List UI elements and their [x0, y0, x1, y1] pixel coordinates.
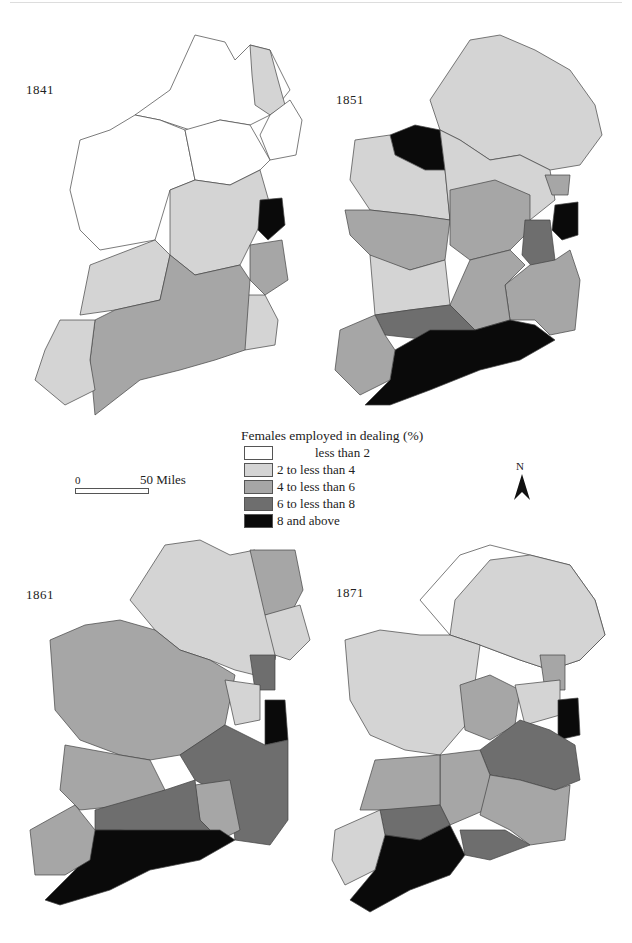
- map-panel-1841: 1841: [20, 20, 320, 430]
- ireland-map-1861: [20, 530, 320, 940]
- legend-item-1: less than 2: [244, 445, 444, 461]
- ireland-map-1841: [20, 20, 320, 430]
- legend-swatch-mid-gray: [244, 480, 273, 494]
- scale-start-label: 0: [75, 474, 81, 486]
- map-panel-1871: 1871: [330, 540, 630, 940]
- legend-label: 6 to less than 8: [277, 496, 355, 512]
- ireland-map-1871: [330, 540, 630, 940]
- legend-item-2: 2 to less than 4: [244, 462, 444, 478]
- legend-swatch-light-gray: [244, 463, 273, 477]
- legend-swatch-dark-gray: [244, 497, 273, 511]
- legend-label: 4 to less than 6: [277, 479, 355, 495]
- north-arrow: N: [512, 460, 532, 500]
- top-rule: [10, 2, 622, 3]
- legend-title: Females employed in dealing (%): [241, 428, 444, 444]
- map-panel-1861: 1861: [20, 530, 320, 940]
- legend: Females employed in dealing (%) less tha…: [244, 428, 444, 529]
- ireland-map-1851: [330, 20, 630, 430]
- scale-end-label: 50 Miles: [140, 472, 186, 488]
- north-arrow-icon: [512, 474, 532, 504]
- legend-label: less than 2: [315, 445, 370, 461]
- scale-bar-graphic: [75, 488, 149, 494]
- legend-label: 8 and above: [277, 513, 340, 529]
- legend-swatch-white: [244, 446, 273, 460]
- legend-item-4: 6 to less than 8: [244, 496, 444, 512]
- map-panel-1851: 1851: [330, 20, 630, 430]
- legend-item-3: 4 to less than 6: [244, 479, 444, 495]
- legend-item-5: 8 and above: [244, 513, 444, 529]
- legend-swatch-black: [244, 514, 273, 528]
- legend-label: 2 to less than 4: [277, 462, 355, 478]
- north-label: N: [516, 460, 524, 472]
